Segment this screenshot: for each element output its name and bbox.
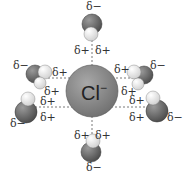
delta-plus-label: δ+ (52, 67, 68, 78)
delta-minus-label: δ− (167, 112, 183, 123)
delta-plus-label: δ+ (74, 45, 90, 56)
delta-plus-label: δ+ (40, 96, 56, 107)
hydration-diagram: Cl− δ−δ+δ+δ−δ+δ+δ−δ+δ+δ−δ+δ+δ−δ+δ+δ−δ+δ+ (0, 0, 185, 183)
delta-minus-label: δ− (150, 60, 166, 71)
ion-label: Cl− (81, 82, 107, 103)
delta-plus-label: δ+ (129, 95, 145, 106)
ion-charge: − (100, 81, 107, 95)
delta-minus-label: δ− (86, 162, 102, 173)
hydrogen-atom (21, 92, 35, 106)
delta-plus-label: δ+ (114, 64, 130, 75)
delta-plus-label: δ+ (95, 130, 111, 141)
water-molecule-top (82, 14, 102, 41)
delta-plus-label: δ+ (40, 112, 56, 123)
delta-plus-label: δ+ (129, 112, 145, 123)
ion-symbol: Cl (81, 82, 100, 104)
delta-plus-label: δ+ (95, 45, 111, 56)
hydrogen-atom (84, 27, 98, 41)
delta-minus-label: δ− (86, 1, 102, 12)
delta-plus-label: δ+ (74, 130, 90, 141)
hydrogen-atom (146, 91, 160, 105)
water-molecule-lower-right (146, 91, 168, 122)
delta-minus-label: δ− (10, 118, 26, 129)
delta-minus-label: δ− (13, 60, 29, 71)
